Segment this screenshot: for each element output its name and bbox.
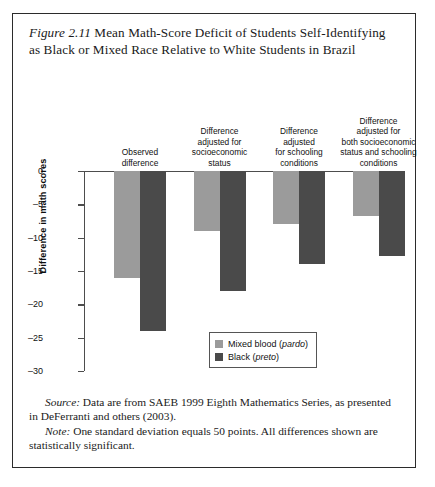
figure-number: Figure 2.11 bbox=[29, 25, 91, 40]
bar bbox=[353, 171, 379, 216]
bar-chart-plot: 0–5–10–15–20–25–30 Difference in math sc… bbox=[13, 76, 417, 381]
legend-label: Mixed blood (pardo) bbox=[228, 339, 308, 349]
category-label: Observeddifference bbox=[109, 147, 171, 168]
legend-item: Mixed blood (pardo) bbox=[215, 337, 308, 350]
y-axis-tick-label: –20 bbox=[3, 299, 43, 309]
source-label: Source: bbox=[45, 396, 80, 408]
note-label: Note: bbox=[45, 425, 70, 437]
note-text: One standard deviation equals 50 points.… bbox=[29, 425, 378, 451]
legend-item: Black (preto) bbox=[215, 350, 308, 363]
y-axis-tick-label: –30 bbox=[3, 366, 43, 376]
bar bbox=[114, 171, 140, 278]
y-axis-title: Difference in math scores bbox=[38, 126, 48, 306]
chart-legend: Mixed blood (pardo)Black (preto) bbox=[209, 332, 317, 368]
legend-swatch bbox=[215, 340, 223, 348]
bar bbox=[194, 171, 220, 231]
y-axis-tick bbox=[78, 204, 84, 205]
category-label: Differenceadjusted forsocioeconomicstatu… bbox=[179, 126, 261, 168]
y-axis-tick-label: –10 bbox=[3, 233, 43, 243]
category-label: Differenceadjusted forboth socioeconomic… bbox=[331, 116, 427, 168]
bar bbox=[140, 171, 166, 331]
y-axis-tick bbox=[78, 271, 84, 272]
general-note: Note: One standard deviation equals 50 p… bbox=[29, 424, 401, 453]
bar bbox=[299, 171, 325, 264]
figure-notes: Source: Data are from SAEB 1999 Eighth M… bbox=[29, 395, 401, 452]
y-axis-tick-label: –5 bbox=[3, 199, 43, 209]
y-axis-tick bbox=[78, 171, 84, 172]
category-label: Differenceadjustedfor schoolingcondition… bbox=[261, 126, 337, 168]
legend-swatch bbox=[215, 353, 223, 361]
legend-label: Black (preto) bbox=[228, 352, 279, 362]
y-axis-tick bbox=[78, 238, 84, 239]
source-note: Source: Data are from SAEB 1999 Eighth M… bbox=[29, 395, 401, 424]
y-axis-tick-label: –25 bbox=[3, 333, 43, 343]
y-axis-tick bbox=[78, 338, 84, 339]
figure-title: Figure 2.11 Mean Math-Score Deficit of S… bbox=[29, 25, 399, 58]
y-axis-line bbox=[84, 171, 85, 371]
figure-frame: Figure 2.11 Mean Math-Score Deficit of S… bbox=[12, 13, 416, 468]
y-axis-tick-label: 0 bbox=[3, 166, 43, 176]
y-axis-tick bbox=[78, 304, 84, 305]
y-axis-tick bbox=[78, 371, 84, 372]
bar bbox=[379, 171, 405, 256]
y-axis-tick-label: –15 bbox=[3, 266, 43, 276]
source-text: Data are from SAEB 1999 Eighth Mathemati… bbox=[29, 396, 391, 422]
bar bbox=[273, 171, 299, 224]
bar bbox=[220, 171, 246, 291]
